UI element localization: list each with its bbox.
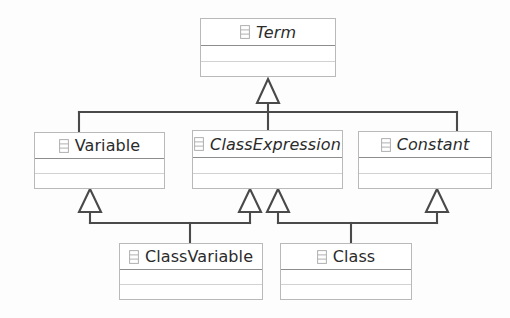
uml-class-icon xyxy=(194,137,204,151)
inheritance-arrowhead-constant xyxy=(426,189,448,212)
uml-class-classexpression-attributes xyxy=(193,158,342,174)
uml-class-classexpression-header: ClassExpression xyxy=(193,131,342,158)
uml-class-class-attributes xyxy=(281,270,411,285)
uml-class-classvariable[interactable]: ClassVariable xyxy=(119,243,263,300)
uml-class-icon xyxy=(129,250,139,264)
uml-class-constant[interactable]: Constant xyxy=(358,131,492,189)
uml-class-classexpression[interactable]: ClassExpression xyxy=(192,130,343,189)
inheritance-arrowhead-classexpression-left xyxy=(239,189,261,212)
uml-class-variable-operations xyxy=(35,174,164,188)
uml-class-constant-attributes xyxy=(359,158,491,174)
uml-class-term[interactable]: Term xyxy=(200,18,336,77)
uml-class-variable-header: Variable xyxy=(35,133,164,159)
uml-class-class-header: Class xyxy=(281,244,411,270)
inheritance-arrowhead-variable xyxy=(79,189,101,212)
uml-class-class[interactable]: Class xyxy=(280,243,412,300)
uml-class-icon xyxy=(381,138,391,152)
uml-class-diagram: Term Variable ClassExpression xyxy=(0,0,510,318)
uml-class-icon xyxy=(59,139,69,153)
uml-class-class-name: Class xyxy=(333,247,376,266)
uml-class-variable[interactable]: Variable xyxy=(34,132,165,189)
inheritance-arrowhead-classexpression-right xyxy=(267,189,289,212)
uml-class-classvariable-operations xyxy=(120,285,262,299)
uml-class-term-header: Term xyxy=(201,19,335,46)
uml-class-term-operations xyxy=(201,62,335,77)
uml-class-constant-header: Constant xyxy=(359,132,491,158)
uml-class-classexpression-name: ClassExpression xyxy=(210,135,341,154)
uml-class-classvariable-attributes xyxy=(120,270,262,285)
uml-class-classvariable-name: ClassVariable xyxy=(145,247,253,266)
uml-class-icon xyxy=(240,25,250,39)
uml-class-term-name: Term xyxy=(256,23,296,42)
uml-class-constant-operations xyxy=(359,174,491,189)
uml-class-term-attributes xyxy=(201,46,335,62)
uml-class-variable-name: Variable xyxy=(75,136,141,155)
uml-class-class-operations xyxy=(281,285,411,299)
uml-class-variable-attributes xyxy=(35,159,164,174)
uml-class-icon xyxy=(317,250,327,264)
inheritance-arrowhead-term xyxy=(257,79,279,103)
uml-class-constant-name: Constant xyxy=(397,135,470,154)
uml-class-classvariable-header: ClassVariable xyxy=(120,244,262,270)
uml-class-classexpression-operations xyxy=(193,174,342,189)
